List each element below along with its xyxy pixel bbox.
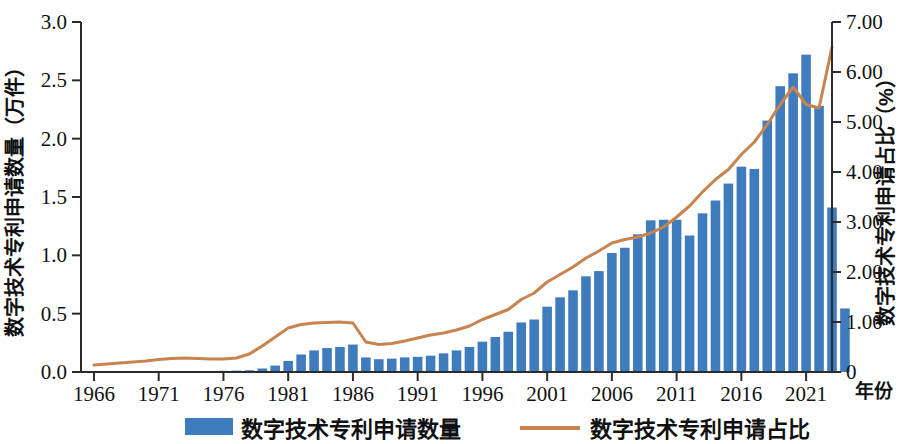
left-tick-label: 0.0 <box>41 360 67 384</box>
bar-2010 <box>659 220 669 372</box>
left-tick-label: 0.5 <box>41 302 67 326</box>
bar-2003 <box>568 290 578 372</box>
left-tick-label: 1.5 <box>41 185 67 209</box>
legend-line-label: 数字技术专利申请占比 <box>590 417 810 442</box>
bar-2004 <box>581 276 591 372</box>
digital-technology-patent-chart: 0.00.51.01.52.02.53.0 01.002.003.004.005… <box>0 0 913 444</box>
x-tick-label: 1971 <box>138 382 180 406</box>
bar-1994 <box>452 350 462 372</box>
x-tick-label: 2016 <box>720 382 762 406</box>
bar-1983 <box>309 350 319 372</box>
line-series-group <box>94 47 832 365</box>
bar-2007 <box>620 248 630 372</box>
right-tick-label: 7.00 <box>846 10 883 34</box>
x-tick-label: 2001 <box>526 382 568 406</box>
left-tick-label: 1.0 <box>41 243 67 267</box>
left-tick-label: 3.0 <box>41 10 67 34</box>
bar-2000 <box>529 320 539 373</box>
bar-2020 <box>788 73 798 372</box>
left-tick-label: 2.5 <box>41 68 67 92</box>
x-axis-title: 年份 <box>855 380 894 402</box>
bar-2014 <box>711 201 721 373</box>
bar-2001 <box>542 307 552 372</box>
chart-legend: 数字技术专利申请数量 数字技术专利申请占比 <box>185 417 810 442</box>
x-tick-label: 1986 <box>332 382 374 406</box>
bar-2015 <box>724 184 734 372</box>
bar-1998 <box>504 332 514 372</box>
x-tick-label: 1996 <box>461 382 503 406</box>
bar-2009 <box>646 220 656 372</box>
bar-1993 <box>439 353 449 372</box>
bar-1990 <box>400 357 410 372</box>
bar-1991 <box>413 357 423 372</box>
bar-2016 <box>737 167 747 372</box>
bar-2013 <box>698 213 708 372</box>
bar-1999 <box>516 322 526 372</box>
right-axis-title: 数字技术专利申请占比（%） <box>874 68 897 326</box>
x-axis-ticks: 1966197119761981198619911996200120062011… <box>73 372 827 406</box>
x-tick-label: 1966 <box>73 382 115 406</box>
bar-1996 <box>478 342 488 372</box>
legend-bar-label: 数字技术专利申请数量 <box>241 417 461 442</box>
bar-2011 <box>672 220 682 372</box>
bar-1995 <box>465 347 475 372</box>
bar-1982 <box>296 355 306 373</box>
bar-1985 <box>335 347 345 372</box>
bar-2002 <box>555 297 565 372</box>
x-tick-label: 1981 <box>267 382 309 406</box>
legend-bar-swatch <box>185 418 233 435</box>
left-axis-title: 数字技术专利申请数量（万件） <box>3 57 26 337</box>
x-tick-label: 1991 <box>397 382 439 406</box>
bar-2018 <box>762 121 772 372</box>
bar-2012 <box>685 236 695 373</box>
bar-1986 <box>348 345 358 372</box>
percentage-line <box>94 47 832 365</box>
bar-1987 <box>361 357 371 372</box>
bar-1992 <box>426 356 436 372</box>
x-tick-label: 2011 <box>656 382 697 406</box>
bar-2006 <box>607 253 617 372</box>
bar-1981 <box>283 361 293 372</box>
x-tick-label: 1976 <box>202 382 244 406</box>
left-axis-ticks: 0.00.51.01.52.02.53.0 <box>41 10 81 384</box>
bar-1988 <box>374 359 384 372</box>
bar-2008 <box>633 234 643 372</box>
x-tick-label: 2006 <box>591 382 633 406</box>
bar-2022 <box>814 106 824 372</box>
chart-container: 0.00.51.01.52.02.53.0 01.002.003.004.005… <box>0 0 913 444</box>
bar-1984 <box>322 348 332 372</box>
left-tick-label: 2.0 <box>41 127 67 151</box>
bar-1989 <box>387 359 397 372</box>
bar-2019 <box>775 86 785 372</box>
bar-2017 <box>750 169 760 372</box>
bar-2005 <box>594 271 604 372</box>
x-tick-label: 2021 <box>785 382 827 406</box>
bar-1997 <box>491 337 501 372</box>
